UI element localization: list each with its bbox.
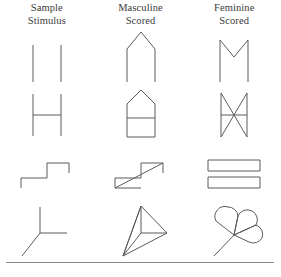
bottom-rule (6, 262, 274, 263)
cell-row1-sample (0, 28, 94, 86)
cell-row1-masculine (94, 28, 188, 86)
stair-step-glyph (7, 144, 87, 202)
h-shape-glyph (7, 86, 87, 144)
tetrahedron-glyph (101, 202, 181, 260)
figure-row-3 (0, 144, 281, 202)
figure-grid (0, 28, 281, 260)
figure-row-1 (0, 28, 281, 86)
cell-row4-masculine (94, 202, 188, 260)
column-header-sample-stimulus: Sample Stimulus (0, 0, 94, 30)
house-with-divider-glyph (101, 86, 181, 144)
figure-row-4 (0, 202, 281, 260)
column-header-feminine-scored: Feminine Scored (187, 0, 281, 30)
figure-panel: Sample Stimulus Masculine Scored Feminin… (0, 0, 281, 277)
cell-row3-masculine (94, 144, 188, 202)
two-stacked-rectangles-glyph (194, 144, 274, 202)
column-header-masculine-scored: Masculine Scored (94, 0, 188, 30)
cell-row2-masculine (94, 86, 188, 144)
cell-row3-feminine (187, 144, 281, 202)
peaked-roof-glyph (101, 28, 181, 86)
flower-with-stem-glyph (194, 202, 274, 260)
bowtie-x-frame-glyph (194, 86, 274, 144)
column-headers: Sample Stimulus Masculine Scored Feminin… (0, 0, 281, 30)
column-header-line-2: Scored (94, 15, 188, 28)
cell-row4-sample (0, 202, 94, 260)
column-header-line-1: Masculine (94, 2, 188, 15)
step-with-diagonal-glyph (101, 144, 181, 202)
cell-row1-feminine (187, 28, 281, 86)
column-header-line-2: Stimulus (0, 15, 94, 28)
y-junction-glyph (7, 202, 87, 260)
two-vertical-lines-glyph (7, 28, 87, 86)
cell-row4-feminine (187, 202, 281, 260)
column-header-line-1: Sample (0, 2, 94, 15)
cell-row3-sample (0, 144, 94, 202)
column-header-line-2: Scored (187, 15, 281, 28)
cell-row2-feminine (187, 86, 281, 144)
figure-row-2 (0, 86, 281, 144)
column-header-line-1: Feminine (187, 2, 281, 15)
cell-row2-sample (0, 86, 94, 144)
m-shape-glyph (194, 28, 274, 86)
